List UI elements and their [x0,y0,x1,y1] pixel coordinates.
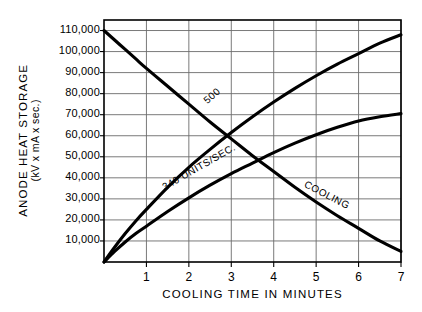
chart-figure: ANODE HEAT STORAGE (kV x mA x sec.) 10,0… [0,0,422,312]
curve-cooling [104,31,401,252]
